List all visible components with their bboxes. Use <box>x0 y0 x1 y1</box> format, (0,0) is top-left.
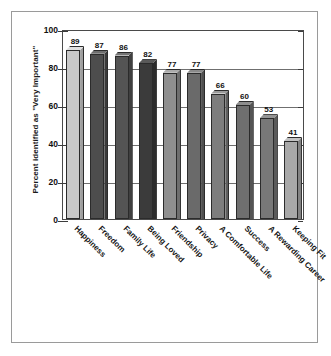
bar-side-face <box>177 69 181 219</box>
bar-front-face <box>139 63 153 219</box>
bar[interactable] <box>115 52 133 219</box>
bar-front-face <box>211 94 225 219</box>
figure-frame: Percent identified as "Very Important" 1… <box>11 11 318 343</box>
bar[interactable] <box>163 69 181 219</box>
bar-front-face <box>187 73 201 219</box>
y-axis-tick-label: 80 <box>36 64 58 73</box>
bar-side-face <box>298 137 302 219</box>
bar-value-label: 60 <box>228 93 262 101</box>
y-axis-tick-label: 60 <box>36 102 58 111</box>
x-axis-category-labels: HappinessFreedomFamily LifeBeing LovedFr… <box>62 220 304 340</box>
bar-value-label: 41 <box>276 129 310 137</box>
bar[interactable] <box>90 50 108 219</box>
bar-front-face <box>90 54 104 219</box>
bar-side-face <box>201 69 205 219</box>
bar-front-face <box>236 105 250 219</box>
bar-value-label: 77 <box>179 61 213 69</box>
bar-front-face <box>66 50 80 219</box>
bar-side-face <box>80 46 84 219</box>
bar-side-face <box>153 59 157 219</box>
y-axis-tick-label: 40 <box>36 140 58 149</box>
bar-front-face <box>115 56 129 219</box>
bar[interactable] <box>139 59 157 219</box>
y-axis-tick-label: 0 <box>36 216 58 225</box>
bar-side-face <box>104 50 108 219</box>
bar-value-label: 82 <box>131 51 165 59</box>
y-axis-tick-label: 20 <box>36 178 58 187</box>
y-axis-tick-label: 100 <box>36 26 58 35</box>
bar-side-face <box>129 52 133 219</box>
bar-chart: Percent identified as "Very Important" 1… <box>12 12 319 344</box>
bar[interactable] <box>284 137 302 219</box>
bar[interactable] <box>236 101 254 219</box>
plot-area: 89878682777766605341 <box>62 30 304 220</box>
bar[interactable] <box>211 90 229 219</box>
bar-front-face <box>284 141 298 219</box>
y-axis-tick-labels: 100806040200 <box>34 12 58 344</box>
bars-layer: 89878682777766605341 <box>63 31 303 219</box>
bar[interactable] <box>66 46 84 219</box>
bar[interactable] <box>187 69 205 219</box>
bar-value-label: 53 <box>252 106 286 114</box>
bar-front-face <box>163 73 177 219</box>
bar-front-face <box>260 118 274 219</box>
bar-value-label: 66 <box>203 82 237 90</box>
bar-side-face <box>225 90 229 219</box>
bar-side-face <box>250 101 254 219</box>
